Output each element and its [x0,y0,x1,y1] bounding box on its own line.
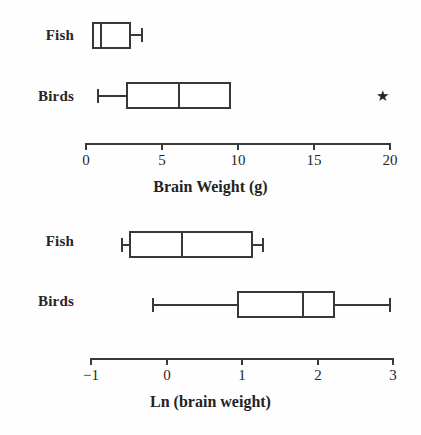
x-axis-ticklabel-1-bottom: 1 [238,367,246,384]
whisker-line-low-birds-bottom [153,304,238,306]
x-axis-tick-5-top [161,143,163,150]
x-axis-ticklabel-10-top: 10 [231,152,246,169]
x-axis-tick-0-top [85,143,87,150]
box-fish-bottom [129,231,253,258]
x-axis-title-top: Brain Weight (g) [0,178,421,196]
box-fish-top [92,22,131,49]
x-axis-ticklabel-20-top: 20 [383,152,398,169]
x-axis-title-bottom: Ln (brain weight) [0,393,421,411]
panel-brain-weight-grams: Fish Birds ★ 0 5 10 [0,0,421,215]
x-axis-tick-2-bottom [317,358,319,365]
whisker-cap-high-fish-bottom [262,238,264,252]
x-axis-tick-0-bottom [166,358,168,365]
whisker-line-low-birds-top [98,95,127,97]
row-label-birds-top: Birds [4,88,74,105]
x-axis-ticklabel-0-top: 0 [82,152,90,169]
x-axis-ticklabel-3-bottom: 3 [389,367,397,384]
panel-ln-brain-weight: Fish Birds −1 0 1 2 3 [0,215,421,435]
outlier-star-birds-top: ★ [376,89,389,104]
median-line-birds-bottom [302,291,304,318]
x-axis-tick-neg1-bottom [90,358,92,365]
median-line-fish-top [100,22,102,49]
box-birds-bottom [237,291,335,318]
boxplot-figure: Fish Birds ★ 0 5 10 [0,0,421,435]
x-axis-ticklabel-0-bottom: 0 [163,367,171,384]
row-label-fish-bottom: Fish [4,233,74,250]
row-label-birds-bottom: Birds [4,293,74,310]
whisker-line-high-birds-bottom [335,304,390,306]
x-axis-ticklabel-15-top: 15 [307,152,322,169]
whisker-cap-high-fish-top [141,28,143,42]
row-label-fish-top: Fish [4,27,74,44]
x-axis-ticklabel-5-top: 5 [158,152,166,169]
x-axis-ticklabel-2-bottom: 2 [314,367,322,384]
x-axis-ticklabel-neg1-bottom: −1 [83,367,99,384]
x-axis-tick-15-top [313,143,315,150]
x-axis-tick-20-top [389,143,391,150]
x-axis-tick-1-bottom [241,358,243,365]
median-line-birds-top [178,82,180,109]
x-axis-tick-3-bottom [392,358,394,365]
median-line-fish-bottom [181,231,183,258]
x-axis-tick-10-top [237,143,239,150]
whisker-cap-high-birds-bottom [389,298,391,312]
